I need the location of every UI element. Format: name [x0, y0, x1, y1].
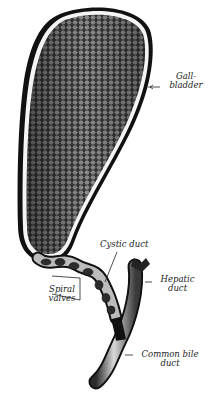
label-spiral-valves-line2: valves	[44, 294, 80, 303]
gallbladder	[18, 7, 153, 262]
label-cystic-duct: Cystic duct	[100, 240, 148, 249]
label-common-bile-duct-line2: duct	[130, 359, 210, 368]
label-spiral-valves: Spiral valves	[44, 285, 80, 303]
gallbladder-illustration	[0, 0, 210, 399]
label-gallbladder: Gall- bladder	[166, 72, 206, 90]
label-gallbladder-line2: bladder	[166, 81, 206, 90]
label-hepatic-duct: Hepatic duct	[155, 275, 200, 293]
label-common-bile-duct: Common bile duct	[130, 350, 210, 368]
label-hepatic-duct-line2: duct	[155, 284, 200, 293]
